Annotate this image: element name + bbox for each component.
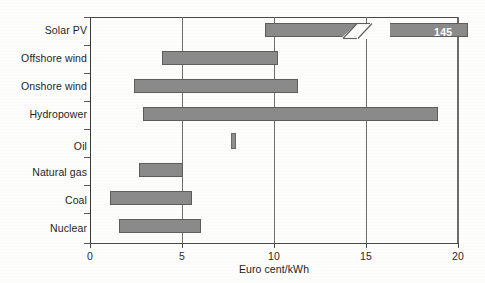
- ytick-2: [84, 73, 90, 74]
- xtick-10: [274, 243, 275, 248]
- catlabel-hydropower: Hydropower: [0, 108, 87, 120]
- x-axis-title: Euro cent/kWh: [90, 263, 458, 275]
- ytick-1: [84, 45, 90, 46]
- xtick-0: [90, 243, 91, 248]
- bar-offshore-wind: [162, 51, 278, 65]
- xticklabel-10: 10: [254, 250, 294, 262]
- bar-hydropower: [143, 107, 438, 121]
- bar-label-solar-pv: 145: [434, 27, 452, 38]
- bar-oil: [231, 133, 236, 149]
- xtick-20: [458, 243, 459, 248]
- xticklabel-20: 20: [438, 250, 478, 262]
- gridline-20: [458, 17, 459, 244]
- ytick-6: [84, 185, 90, 186]
- axis-break-marks: [340, 20, 400, 42]
- catlabel-onshore-wind: Onshore wind: [0, 80, 87, 92]
- catlabel-solar-pv: Solar PV: [0, 24, 87, 36]
- ytick-4: [84, 129, 90, 130]
- bar-solar-pv-segment-right: [390, 23, 468, 37]
- ytick-3: [84, 101, 90, 102]
- catlabel-natural-gas: Natural gas: [0, 166, 87, 178]
- ytick-0: [84, 17, 90, 18]
- catlabel-nuclear: Nuclear: [0, 222, 87, 234]
- catlabel-offshore-wind: Offshore wind: [0, 52, 87, 64]
- xtick-15: [366, 243, 367, 248]
- gridline-15: [366, 17, 367, 244]
- xticklabel-5: 5: [162, 250, 202, 262]
- catlabel-oil: Oil: [0, 140, 87, 152]
- bar-natural-gas: [139, 163, 183, 177]
- bar-coal: [110, 191, 192, 205]
- bar-nuclear: [119, 219, 201, 233]
- catlabel-coal: Coal: [0, 194, 87, 206]
- xticklabel-0: 0: [70, 250, 110, 262]
- xtick-5: [182, 243, 183, 248]
- xticklabel-15: 15: [346, 250, 386, 262]
- ytick-5: [84, 157, 90, 158]
- ytick-8: [84, 243, 90, 244]
- ytick-7: [84, 213, 90, 214]
- cost-range-chart: 0 5 10 15 20 Solar PV Offshore wind Onsh…: [0, 0, 485, 283]
- bar-onshore-wind: [134, 79, 298, 93]
